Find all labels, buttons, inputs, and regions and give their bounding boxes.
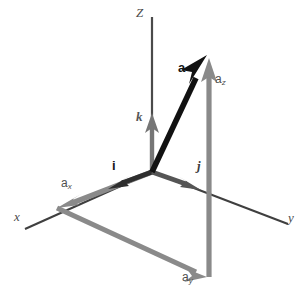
z-axis-label: Z (136, 6, 143, 19)
vector-diagram: Z x y i j k a ax ay az (0, 0, 305, 296)
k-unit-vector-label: k (136, 110, 143, 123)
component-vectors-group (57, 58, 217, 282)
a-y-component-label: ay (182, 271, 193, 283)
i-unit-vector-label: i (112, 159, 116, 172)
a-x-component-label-base: a (61, 176, 68, 190)
axes-group (25, 17, 288, 229)
vector-a-label: a (178, 61, 185, 74)
a-x-component-label-sub: x (68, 182, 72, 191)
i-unit-vector-arrow (108, 172, 152, 189)
unit-vectors-group (108, 172, 201, 190)
x-axis-label: x (14, 210, 20, 223)
a-z-component-label: az (215, 73, 226, 85)
j-unit-vector-label: j (197, 159, 201, 172)
a-z-component-arrow (201, 58, 217, 277)
j-unit-vector-arrow (152, 172, 201, 190)
a-z-component-label-sub: z (222, 78, 226, 87)
a-y-component-label-sub: y (189, 276, 193, 285)
a-z-component-label-base: a (215, 72, 222, 86)
vector-diagram-canvas (0, 0, 305, 296)
y-axis-label: y (288, 211, 294, 224)
a-x-component-label: ax (61, 177, 72, 189)
a-y-component-label-base: a (182, 270, 189, 284)
